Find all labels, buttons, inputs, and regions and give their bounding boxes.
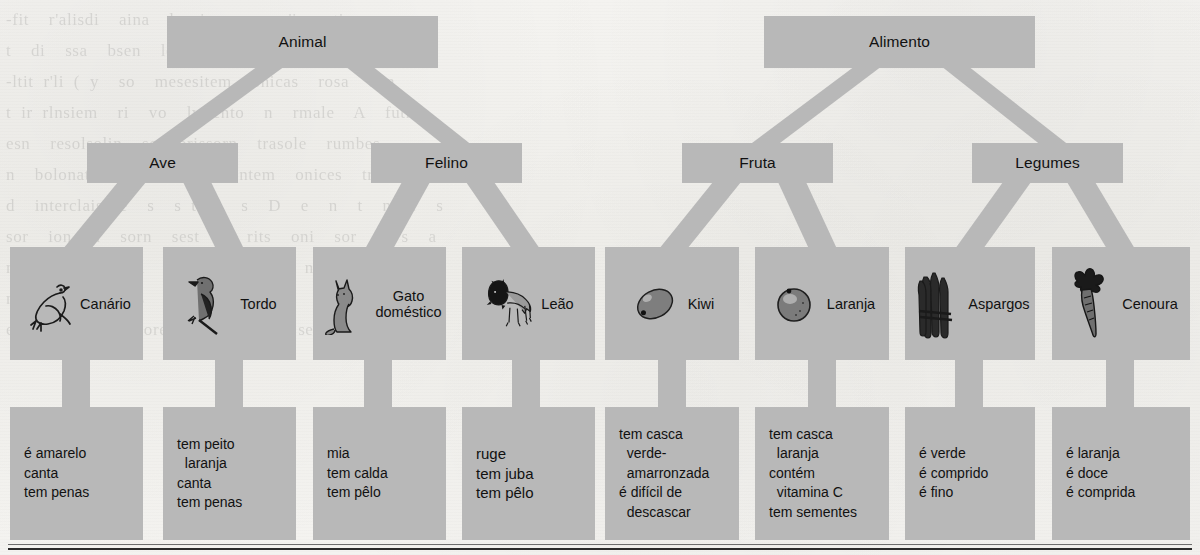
- connector-ave-canario: [63, 182, 146, 249]
- prop-line: é difícil de: [619, 483, 725, 503]
- asparagus-icon: [910, 273, 962, 335]
- prop-line: tem juba: [476, 464, 581, 484]
- node-felino-label: Felino: [425, 154, 468, 172]
- prop-line: laranja: [769, 444, 875, 464]
- node-animal-label: Animal: [279, 33, 327, 51]
- prop-line: é verde: [919, 444, 1021, 464]
- prop-line: é comprido: [919, 464, 1021, 484]
- page-footer-rule-thin: [8, 544, 1192, 545]
- connector-legumes-cenoura: [1067, 182, 1135, 249]
- stem-canario: [62, 360, 90, 408]
- node-laranja[interactable]: Laranja: [755, 247, 889, 360]
- node-aspargos[interactable]: Aspargos: [905, 247, 1035, 360]
- prop-line: é amarelo: [24, 444, 129, 464]
- lion-icon: [483, 273, 535, 335]
- page-footer-rule: [8, 548, 1192, 550]
- node-cenoura-label: Cenoura: [1122, 296, 1178, 312]
- node-laranja-label: Laranja: [827, 296, 875, 312]
- stem-tordo: [215, 360, 243, 408]
- prop-line: mia: [327, 444, 432, 464]
- node-prop-leao[interactable]: ruge tem juba tem pêlo: [462, 407, 595, 540]
- prop-line: tem pêlo: [476, 483, 581, 503]
- connector-alimento-legumes: [941, 66, 1070, 146]
- prop-line: contém: [769, 464, 875, 484]
- prop-line: amarronzada: [619, 464, 725, 484]
- prop-line: é doce: [1066, 464, 1176, 484]
- domestic-cat-icon: [317, 273, 369, 335]
- connector-ave-tordo: [183, 182, 244, 249]
- node-legumes[interactable]: Legumes: [972, 143, 1123, 183]
- prop-gato-lines: mia tem calda tem pêlo: [327, 444, 432, 503]
- prop-cenoura-lines: é laranja é doce é comprida: [1066, 444, 1176, 503]
- node-prop-canario[interactable]: é amarelo canta tem penas: [10, 407, 143, 540]
- prop-leao-lines: ruge tem juba tem pêlo: [476, 444, 581, 503]
- canary-bird-icon: [22, 273, 74, 335]
- node-felino[interactable]: Felino: [371, 143, 522, 183]
- node-prop-aspargos[interactable]: é verde é comprido é fino: [905, 407, 1035, 540]
- node-prop-gato[interactable]: mia tem calda tem pêlo: [313, 407, 446, 540]
- prop-line: tem pêlo: [327, 483, 432, 503]
- node-kiwi-label: Kiwi: [688, 296, 715, 312]
- prop-line: é fino: [919, 483, 1021, 503]
- stem-gato: [364, 360, 392, 408]
- node-ave-label: Ave: [149, 154, 176, 172]
- node-canario-label: Canário: [80, 296, 131, 312]
- node-prop-laranja[interactable]: tem casca laranja contém vitamina C tem …: [755, 407, 889, 540]
- prop-line: tem casca: [769, 425, 875, 445]
- node-alimento[interactable]: Alimento: [764, 16, 1035, 68]
- node-leao[interactable]: Leão: [462, 247, 595, 360]
- prop-line: tem penas: [177, 493, 282, 513]
- prop-aspargos-lines: é verde é comprido é fino: [919, 444, 1021, 503]
- node-gato-label: Gato doméstico: [375, 288, 441, 320]
- node-tordo[interactable]: Tordo: [163, 247, 296, 360]
- node-legumes-label: Legumes: [1015, 154, 1079, 172]
- prop-line: tem peito: [177, 435, 282, 455]
- node-gato[interactable]: Gato doméstico: [313, 247, 446, 360]
- prop-line: canta: [177, 474, 282, 494]
- prop-line: verde-: [619, 444, 725, 464]
- semantic-network-diagram: -fit r'alisdi aina lsonicm se r'is nti- …: [0, 0, 1200, 555]
- node-fruta[interactable]: Fruta: [682, 143, 833, 183]
- node-ave[interactable]: Ave: [87, 143, 238, 183]
- node-alimento-label: Alimento: [869, 33, 930, 51]
- node-aspargos-label: Aspargos: [968, 296, 1029, 312]
- prop-line: tem casca: [619, 425, 725, 445]
- stem-aspargos: [955, 360, 983, 408]
- node-kiwi[interactable]: Kiwi: [605, 247, 739, 360]
- prop-line: tem calda: [327, 464, 432, 484]
- connector-animal-felino: [345, 66, 473, 146]
- prop-line: vitamina C: [769, 483, 875, 503]
- node-fruta-label: Fruta: [739, 154, 776, 172]
- node-tordo-label: Tordo: [240, 296, 276, 312]
- connector-fruta-laranja: [778, 182, 837, 249]
- prop-line: é comprida: [1066, 483, 1176, 503]
- prop-line: tem sementes: [769, 503, 875, 523]
- prop-line: é laranja: [1066, 444, 1176, 464]
- prop-line: tem penas: [24, 483, 129, 503]
- prop-line: laranja: [177, 454, 282, 474]
- prop-line: descascar: [619, 503, 725, 523]
- node-canario[interactable]: Canário: [10, 247, 143, 360]
- connector-felino-gato: [365, 182, 430, 249]
- stem-cenoura: [1106, 360, 1134, 408]
- kiwi-fruit-icon: [630, 273, 682, 335]
- node-cenoura[interactable]: Cenoura: [1052, 247, 1190, 360]
- node-prop-tordo[interactable]: tem peito laranja canta tem penas: [163, 407, 296, 540]
- connector-legumes-aspargos: [955, 182, 1031, 249]
- orange-fruit-icon: [769, 273, 821, 335]
- prop-canario-lines: é amarelo canta tem penas: [24, 444, 129, 503]
- connector-felino-leao: [466, 182, 540, 249]
- connector-fruta-kiwi: [659, 182, 741, 249]
- carrot-icon: [1064, 273, 1116, 335]
- prop-kiwi-lines: tem casca verde- amarronzada é difícil d…: [619, 425, 725, 523]
- stem-leao: [512, 360, 540, 408]
- prop-line: ruge: [476, 444, 581, 464]
- prop-line: canta: [24, 464, 129, 484]
- thrush-bird-icon: [182, 273, 234, 335]
- stem-kiwi: [658, 360, 686, 408]
- node-prop-kiwi[interactable]: tem casca verde- amarronzada é difícil d…: [605, 407, 739, 540]
- node-prop-cenoura[interactable]: é laranja é doce é comprida: [1052, 407, 1190, 540]
- stem-laranja: [808, 360, 836, 408]
- node-animal[interactable]: Animal: [167, 16, 438, 68]
- connector-animal-ave: [148, 66, 285, 146]
